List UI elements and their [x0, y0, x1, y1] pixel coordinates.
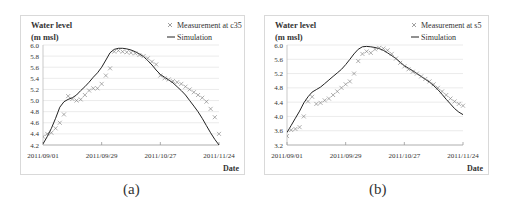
- measurement-marker: [116, 49, 120, 53]
- y-tick-label: 4.8: [30, 108, 39, 116]
- measurement-marker: [209, 107, 213, 111]
- measurement-marker: [121, 50, 125, 54]
- measurement-marker: [310, 95, 314, 99]
- measurement-marker: [348, 79, 352, 83]
- measurement-marker: [448, 97, 452, 101]
- measurement-marker: [461, 104, 465, 108]
- x-tick-label: 2011/09/29: [330, 152, 362, 160]
- measurement-marker: [192, 90, 196, 94]
- x-tick-label: 2011/11/24: [447, 152, 479, 160]
- panel-label-a: (a): [123, 181, 140, 198]
- measurement-marker: [150, 60, 154, 64]
- legend-simulation: Simulation: [421, 33, 456, 42]
- measurement-marker: [175, 80, 179, 84]
- y-tick-label: 4.2: [30, 142, 39, 150]
- y-tick-label: 5.0: [30, 97, 39, 105]
- chart-a-svg: Water level(m msl)6.05.85.65.45.25.04.84…: [21, 16, 244, 174]
- y-tick-label: 4.8: [274, 84, 283, 92]
- y-tick-label: 5.8: [30, 53, 39, 61]
- measurement-marker: [306, 99, 310, 103]
- measurement-marker: [200, 96, 204, 100]
- y-tick-label: 5.6: [274, 56, 283, 64]
- measurement-marker: [453, 99, 457, 103]
- measurement-marker: [196, 93, 200, 97]
- measurement-marker: [331, 93, 335, 97]
- y-tick-label: 4.4: [30, 130, 39, 138]
- x-tick-label: 2011/11/24: [203, 152, 235, 160]
- y-tick-label: 6.0: [30, 42, 39, 50]
- measurement-marker: [112, 50, 116, 54]
- legend-marker-icon: [168, 23, 172, 27]
- x-axis-title: Date: [223, 164, 239, 173]
- measurement-marker: [100, 82, 104, 86]
- y-axis-title: Water level: [31, 20, 73, 30]
- y-tick-label: 4.0: [274, 113, 283, 121]
- measurement-marker: [360, 52, 364, 56]
- measurement-marker: [440, 89, 444, 93]
- y-tick-label: 5.4: [30, 75, 39, 83]
- measurement-marker: [298, 125, 302, 129]
- y-tick-label: 5.2: [274, 70, 283, 78]
- measurement-marker: [365, 49, 369, 53]
- y-tick-label: 6.0: [274, 42, 283, 50]
- y-axis-title: Water level: [275, 20, 317, 30]
- measurement-marker: [213, 115, 217, 119]
- measurement-marker: [146, 56, 150, 60]
- y-tick-label: 4.6: [30, 119, 39, 127]
- measurement-marker: [327, 97, 331, 101]
- measurement-marker: [104, 74, 108, 78]
- x-tick-label: 2011/10/27: [389, 152, 421, 160]
- measurement-marker: [66, 94, 70, 98]
- measurement-marker: [183, 85, 187, 89]
- y-tick-label: 3.2: [274, 142, 283, 150]
- y-tick-label: 4.4: [274, 99, 283, 107]
- measurement-marker: [444, 93, 448, 97]
- x-tick-label: 2011/09/29: [86, 152, 118, 160]
- x-axis-title: Date: [467, 164, 483, 173]
- y-axis-unit: (m msl): [275, 32, 303, 42]
- legend-measurement: Measurement at c35: [177, 21, 242, 30]
- y-tick-label: 5.6: [30, 64, 39, 72]
- measurement-marker: [335, 89, 339, 93]
- measurement-marker: [154, 62, 158, 66]
- measurement-marker: [54, 126, 58, 130]
- chart-panel-a: Water level(m msl)6.05.85.65.45.25.04.84…: [20, 15, 245, 175]
- measurement-marker: [369, 51, 373, 55]
- measurement-marker: [394, 57, 398, 61]
- chart-panel-b: Water level(m msl)6.05.65.24.84.44.03.63…: [264, 15, 489, 175]
- y-tick-label: 3.6: [274, 127, 283, 135]
- measurement-marker: [386, 48, 390, 52]
- x-tick-label: 2011/09/01: [27, 152, 59, 160]
- measurement-marker: [344, 82, 348, 86]
- measurement-marker: [179, 82, 183, 86]
- simulation-line: [43, 48, 219, 145]
- legend-marker-icon: [412, 23, 416, 27]
- measurement-marker: [62, 112, 66, 116]
- y-tick-label: 5.2: [30, 86, 39, 94]
- x-tick-label: 2011/09/01: [271, 152, 303, 160]
- panel-label-b: (b): [369, 181, 387, 198]
- measurement-marker: [83, 93, 87, 97]
- measurement-marker: [289, 128, 293, 132]
- legend-simulation: Simulation: [177, 33, 212, 42]
- measurement-marker: [125, 50, 129, 54]
- measurement-marker: [129, 51, 133, 55]
- x-tick-label: 2011/10/27: [145, 152, 177, 160]
- chart-b-svg: Water level(m msl)6.05.65.24.84.44.03.63…: [265, 16, 488, 174]
- legend-measurement: Measurement at s5: [421, 21, 481, 30]
- measurement-marker: [419, 74, 423, 78]
- measurement-marker: [319, 101, 323, 105]
- y-axis-unit: (m msl): [31, 32, 59, 42]
